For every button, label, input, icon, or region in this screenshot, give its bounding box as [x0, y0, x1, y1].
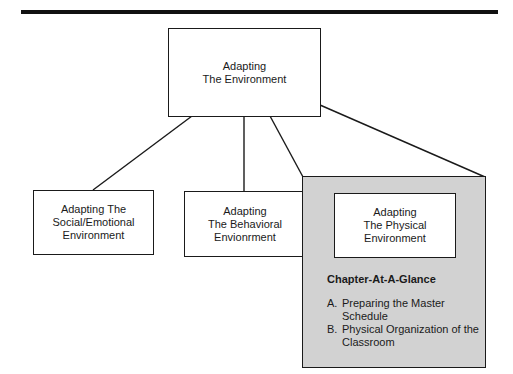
connector-physical-left — [270, 116, 303, 177]
connector-social-emotional — [93, 116, 192, 190]
list-item: A. Preparing the Master Schedule — [327, 297, 482, 323]
root-line-2: The Environment — [203, 73, 287, 86]
node-label-line: Social/Emotional — [53, 216, 135, 229]
list-text: Preparing the Master Schedule — [342, 297, 482, 323]
list-item: B. Physical Organization of the Classroo… — [327, 323, 482, 349]
root-node: Adapting The Environment — [168, 28, 321, 117]
chapter-at-a-glance-list: A. Preparing the Master Schedule B. Phys… — [327, 297, 482, 349]
node-behavioral: Adapting The Behavioral Envionrment — [184, 191, 306, 257]
list-text: Physical Organization of the Classroom — [342, 323, 482, 349]
node-label-line: Environment — [364, 232, 426, 245]
connector-physical-right — [320, 105, 485, 177]
node-label-line: Adapting — [223, 205, 266, 218]
list-marker: B. — [327, 323, 342, 349]
node-label-line: Envionrment — [214, 231, 276, 244]
node-label-line: Environment — [63, 229, 125, 242]
root-line-1: Adapting — [223, 60, 266, 73]
highlight-panel-physical: Adapting The Physical Environment Chapte… — [302, 176, 486, 368]
node-label-line: Adapting The — [61, 203, 126, 216]
node-label-line: Adapting — [373, 206, 416, 219]
list-marker: A. — [327, 297, 342, 323]
chapter-at-a-glance-title: Chapter-At-A-Glance — [327, 273, 436, 285]
node-physical: Adapting The Physical Environment — [334, 193, 456, 258]
node-label-line: The Physical — [364, 219, 427, 232]
node-label-line: The Behavioral — [208, 218, 282, 231]
node-social-emotional: Adapting The Social/Emotional Environmen… — [33, 190, 154, 255]
